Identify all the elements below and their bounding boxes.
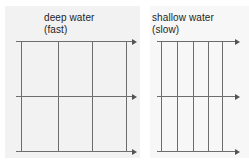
- wave-refraction-diagram: deep water (fast) shallow water (slow): [0, 0, 249, 162]
- deep-water-label-line2: (fast): [44, 24, 94, 36]
- deep-water-label-line1: deep water: [44, 12, 94, 23]
- shallow-water-label-line1: shallow water: [152, 12, 214, 23]
- deep-water-label: deep water (fast): [44, 12, 94, 36]
- deep-water-ray-1: [16, 41, 132, 42]
- shallow-water-ray-3: [157, 151, 235, 152]
- shallow-water-ray-1: [157, 41, 235, 42]
- shallow-water-ray-arrowhead-2: [235, 94, 240, 100]
- shallow-water-ray-arrowhead-1: [235, 39, 240, 45]
- deep-water-ray-arrowhead-3: [132, 149, 137, 155]
- shallow-water-label-line2: (slow): [152, 24, 214, 36]
- shallow-water-label: shallow water (slow): [152, 12, 214, 36]
- deep-water-ray-2: [16, 96, 132, 97]
- shallow-water-ray-2: [157, 96, 235, 97]
- deep-water-ray-arrowhead-2: [132, 94, 137, 100]
- deep-water-ray-arrowhead-1: [132, 39, 137, 45]
- deep-water-ray-3: [16, 151, 132, 152]
- shallow-water-ray-arrowhead-3: [235, 149, 240, 155]
